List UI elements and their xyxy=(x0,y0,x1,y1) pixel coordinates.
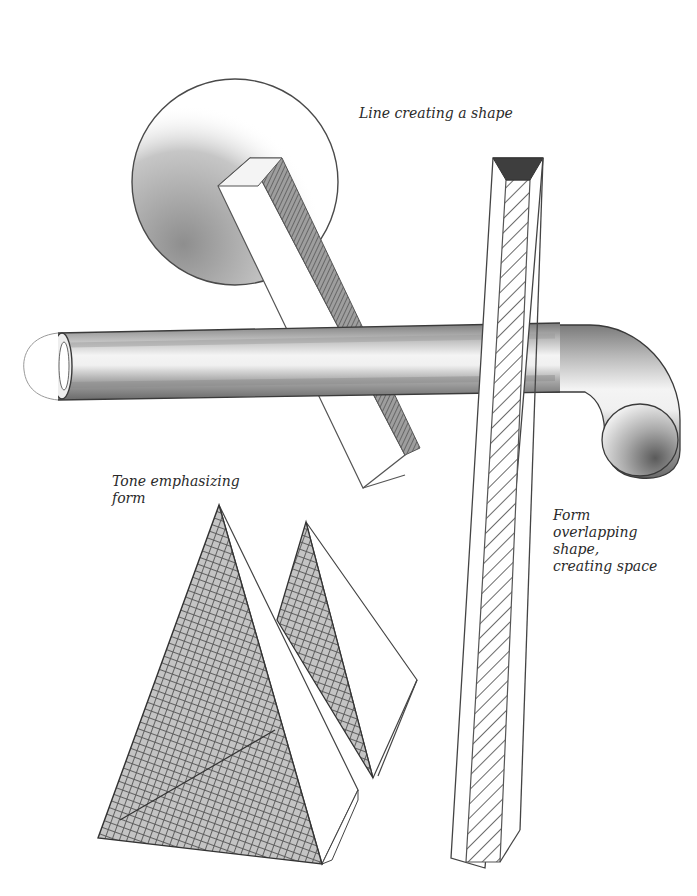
pencil-illustration xyxy=(0,0,697,896)
caption-line-creating-shape: Line creating a shape xyxy=(359,105,513,122)
caption-tone-emphasizing-form: Tone emphasizing form xyxy=(112,473,240,507)
caption-form-overlapping-shape: Form overlapping shape, creating space xyxy=(553,507,657,575)
vertical-beam xyxy=(451,158,543,868)
